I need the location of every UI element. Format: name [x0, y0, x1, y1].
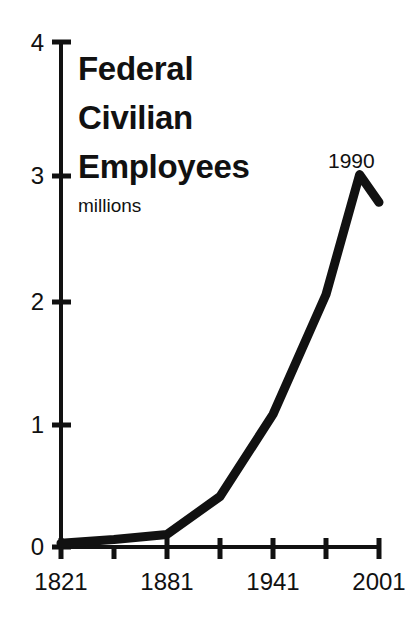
x-axis-label-1821: 1821 — [21, 570, 101, 594]
title-line-3: Employees — [78, 142, 338, 191]
y-axis-label-2: 2 — [18, 290, 44, 314]
chart-subtitle-units: millions — [78, 195, 338, 217]
y-axis-label-0: 0 — [18, 535, 44, 559]
peak-annotation-1990: 1990 — [328, 150, 375, 171]
x-axis-label-2001: 2001 — [339, 570, 407, 594]
y-axis-label-3: 3 — [18, 164, 44, 188]
y-axis-label-4: 4 — [18, 31, 44, 55]
y-axis-label-1: 1 — [18, 413, 44, 437]
title-line-1: Federal — [78, 44, 338, 93]
x-axis-label-1941: 1941 — [233, 570, 313, 594]
chart-container: Federal Civilian Employees millions 4 3 … — [0, 0, 407, 629]
title-line-2: Civilian — [78, 93, 338, 142]
x-axis-label-1881: 1881 — [127, 570, 207, 594]
data-series-line — [61, 175, 379, 544]
chart-title-block: Federal Civilian Employees millions — [78, 44, 338, 217]
